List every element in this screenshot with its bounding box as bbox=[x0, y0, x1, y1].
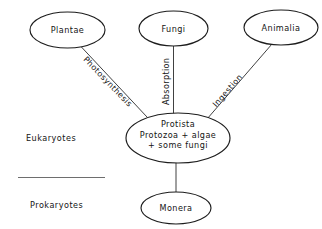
group-label-prokaryotes: Prokaryotes bbox=[30, 200, 83, 210]
node-shape-animalia[interactable] bbox=[244, 10, 318, 45]
diagram-canvas: Plantae Fungi Animalia Protista Protozoa… bbox=[0, 0, 322, 229]
edge-label-absorption: Absorption bbox=[162, 58, 171, 105]
node-shape-fungi[interactable] bbox=[139, 11, 208, 46]
node-shape-protista[interactable] bbox=[126, 113, 230, 163]
diagram-vector-layer bbox=[0, 0, 322, 229]
group-label-eukaryotes: Eukaryotes bbox=[26, 133, 76, 143]
node-shape-plantae[interactable] bbox=[30, 12, 105, 48]
node-shape-monera[interactable] bbox=[141, 192, 211, 224]
